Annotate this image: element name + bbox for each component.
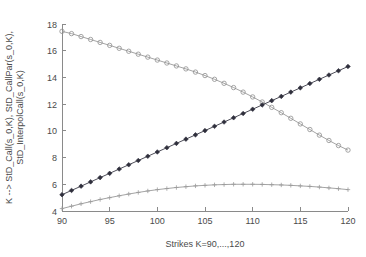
axis-labels-group: 90951001051101151204681012141618Strikes … — [4, 20, 356, 250]
series-marker-2 — [250, 182, 254, 186]
series-marker-1 — [174, 141, 179, 146]
series-marker-1 — [98, 175, 103, 180]
series-marker-2 — [336, 186, 340, 190]
series-marker-1 — [126, 162, 131, 167]
series-marker-1 — [308, 81, 313, 86]
x-tick-label: 90 — [57, 216, 67, 226]
series-marker-2 — [165, 186, 169, 190]
series-marker-2 — [60, 206, 64, 210]
series-marker-1 — [317, 77, 322, 82]
series-marker-2 — [136, 190, 140, 194]
series-group — [60, 29, 351, 211]
series-marker-1 — [107, 171, 112, 176]
x-tick-label: 95 — [105, 216, 115, 226]
series-marker-2 — [146, 189, 150, 193]
series-marker-1 — [117, 167, 122, 172]
series-marker-2 — [69, 204, 73, 208]
series-marker-2 — [222, 182, 226, 186]
y-tick-label: 14 — [47, 73, 57, 83]
series-marker-2 — [117, 194, 121, 198]
y-tick-label: 10 — [47, 126, 57, 136]
x-tick-label: 105 — [197, 216, 212, 226]
series-marker-2 — [346, 187, 350, 191]
plot-canvas: 90951001051101151204681012141618Strikes … — [0, 0, 366, 257]
series-marker-1 — [165, 145, 170, 150]
series-marker-1 — [69, 188, 74, 193]
x-axis-title: Strikes K=90,...,120 — [166, 239, 245, 249]
series-marker-1 — [222, 120, 227, 125]
series-marker-1 — [346, 64, 351, 69]
series-marker-1 — [136, 158, 141, 163]
x-tick-label: 100 — [150, 216, 165, 226]
axis-frame — [62, 24, 348, 211]
series-marker-2 — [317, 185, 321, 189]
series-marker-2 — [193, 184, 197, 188]
y-tick-label: 16 — [47, 46, 57, 56]
series-marker-1 — [298, 86, 303, 91]
series-marker-2 — [174, 185, 178, 189]
y-tick-label: 6 — [52, 180, 57, 190]
series-marker-1 — [269, 98, 274, 103]
chart-figure: 90951001051101151204681012141618Strikes … — [0, 0, 366, 257]
y-tick-label: 8 — [52, 153, 57, 163]
series-marker-2 — [98, 197, 102, 201]
series-marker-1 — [146, 154, 151, 159]
series-marker-2 — [327, 186, 331, 190]
x-tick-label: 115 — [293, 216, 307, 226]
series-marker-2 — [308, 184, 312, 188]
series-marker-2 — [279, 183, 283, 187]
x-tick-label: 110 — [245, 216, 259, 226]
series-marker-1 — [250, 107, 255, 112]
axes-group — [62, 24, 348, 211]
series-marker-2 — [107, 195, 111, 199]
series-marker-2 — [127, 192, 131, 196]
series-marker-2 — [260, 182, 264, 186]
series-marker-1 — [79, 184, 84, 189]
y-axis-title-line1: K --> StD_Call(s_0,K), StD_CallPar(s_0,K… — [4, 31, 14, 204]
series-marker-2 — [184, 184, 188, 188]
series-marker-2 — [212, 183, 216, 187]
series-marker-2 — [88, 199, 92, 203]
series-marker-2 — [289, 183, 293, 187]
series-line-2 — [62, 184, 348, 208]
series-marker-2 — [79, 202, 83, 206]
series-marker-1 — [231, 115, 236, 120]
series-marker-2 — [203, 183, 207, 187]
series-marker-1 — [241, 111, 246, 116]
y-axis-title-line2: StD_InterpolCall(s_0,K) — [15, 70, 25, 165]
series-marker-1 — [212, 124, 217, 129]
series-marker-1 — [155, 150, 160, 155]
series-marker-2 — [298, 184, 302, 188]
series-marker-1 — [279, 94, 284, 99]
series-marker-1 — [60, 192, 65, 197]
x-tick-label: 120 — [340, 216, 355, 226]
series-marker-2 — [231, 182, 235, 186]
series-marker-1 — [289, 90, 294, 95]
series-marker-2 — [270, 182, 274, 186]
y-tick-label: 4 — [52, 207, 57, 217]
series-marker-2 — [241, 182, 245, 186]
series-marker-2 — [155, 187, 159, 191]
series-marker-1 — [184, 137, 189, 142]
series-marker-1 — [327, 73, 332, 78]
y-tick-label: 18 — [47, 20, 57, 30]
series-marker-1 — [336, 68, 341, 73]
series-marker-1 — [88, 180, 93, 185]
y-tick-label: 12 — [47, 100, 57, 110]
series-marker-1 — [203, 128, 208, 133]
series-marker-1 — [193, 133, 198, 138]
